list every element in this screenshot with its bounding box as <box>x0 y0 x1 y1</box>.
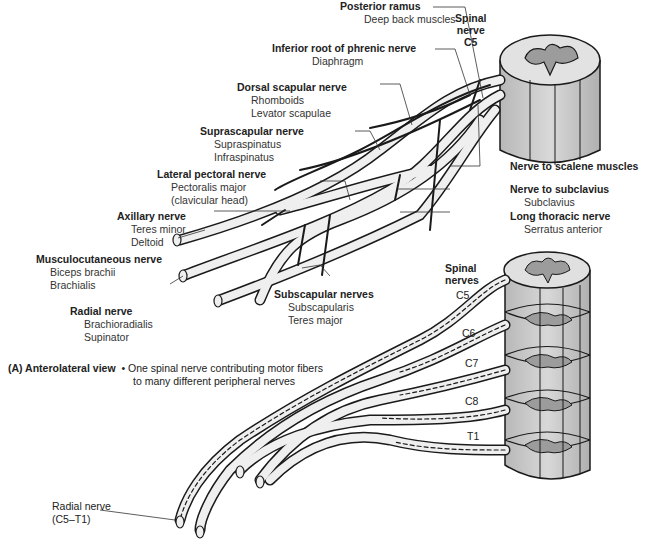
label-title: Lateral pectoral nerve <box>157 168 266 181</box>
label-sub: Teres minor <box>117 223 186 236</box>
label-sub: Subclavius <box>510 196 609 209</box>
figure-caption: (A) Anterolateral view • One spinal nerv… <box>8 362 323 375</box>
label-spinal-nerves-bottom: Spinal nerves <box>445 262 479 286</box>
label-musculocutaneous: Musculocutaneous nerve Biceps brachii Br… <box>36 253 162 292</box>
label-line: Spinal <box>455 12 487 24</box>
label-scalene: Nerve to scalene muscles <box>510 160 638 173</box>
label-axillary: Axillary nerve Teres minor Deltoid <box>117 210 186 249</box>
label-title: Long thoracic nerve <box>510 210 610 223</box>
label-line: (C5–T1) <box>52 513 111 526</box>
label-title: Dorsal scapular nerve <box>237 81 347 94</box>
label-sub: Biceps brachii <box>36 266 162 279</box>
segment-c6: C6 <box>462 327 475 339</box>
label-dorsal-scapular: Dorsal scapular nerve Rhomboids Levator … <box>237 81 347 120</box>
label-line: Spinal <box>445 262 479 274</box>
label-sub: Brachialis <box>36 279 162 292</box>
label-sub: Pectoralis major <box>157 181 266 194</box>
segment-t1: T1 <box>467 430 479 442</box>
label-suprascapular: Suprascapular nerve Supraspinatus Infras… <box>200 125 304 164</box>
label-long-thoracic: Long thoracic nerve Serratus anterior <box>510 210 610 236</box>
label-sub: Infraspinatus <box>200 151 304 164</box>
label-subclavius: Nerve to subclavius Subclavius <box>510 183 609 209</box>
segment-c5: C5 <box>456 289 469 301</box>
label-radial-bottom: Radial nerve (C5–T1) <box>52 500 111 526</box>
caption-note: • One spinal nerve contributing motor fi… <box>121 362 323 374</box>
label-title: Suprascapular nerve <box>200 125 304 138</box>
segment-c8: C8 <box>465 395 478 407</box>
label-title: Posterior ramus <box>340 0 456 13</box>
label-phrenic-nerve: Inferior root of phrenic nerve Diaphragm <box>272 42 416 68</box>
label-title: Radial nerve <box>70 305 153 318</box>
label-sub: Supraspinatus <box>200 138 304 151</box>
label-sub: Teres major <box>274 314 374 327</box>
label-title: Subscapular nerves <box>274 288 374 301</box>
label-lateral-pectoral: Lateral pectoral nerve Pectoralis major … <box>157 168 266 207</box>
label-sub: Subscapularis <box>274 301 374 314</box>
label-title: Musculocutaneous nerve <box>36 253 162 266</box>
label-sub: Rhomboids <box>237 94 347 107</box>
panel-label: (A) Anterolateral view <box>8 362 116 374</box>
segment-c5-top: C5 <box>455 36 487 48</box>
segment-c7: C7 <box>465 357 478 369</box>
label-line: Radial nerve <box>52 500 111 513</box>
spinal-cord-column <box>504 252 590 479</box>
label-sub: Deltoid <box>117 236 186 249</box>
label-sub: Supinator <box>70 331 153 344</box>
label-title: Nerve to subclavius <box>510 183 609 196</box>
spinal-cord-top <box>500 35 600 165</box>
label-sub: Levator scapulae <box>237 107 347 120</box>
label-line: nerve <box>455 24 487 36</box>
label-subscapular: Subscapular nerves Subscapularis Teres m… <box>274 288 374 327</box>
label-title: Inferior root of phrenic nerve <box>272 42 416 55</box>
label-posterior-ramus: Posterior ramus Deep back muscles <box>340 0 456 26</box>
caption-note: to many different peripheral nerves <box>133 375 295 387</box>
figure-caption-2: to many different peripheral nerves <box>133 375 295 388</box>
label-radial-top: Radial nerve Brachioradialis Supinator <box>70 305 153 344</box>
label-sub: Brachioradialis <box>70 318 153 331</box>
label-sub: Deep back muscles <box>340 13 456 26</box>
label-title: Nerve to scalene muscles <box>510 160 638 173</box>
label-title: Axillary nerve <box>117 210 186 223</box>
label-line: nerves <box>445 274 479 286</box>
label-sub: (clavicular head) <box>157 194 266 207</box>
label-spinal-nerve-top: Spinal nerve C5 <box>455 12 487 48</box>
label-sub: Diaphragm <box>272 55 416 68</box>
label-sub: Serratus anterior <box>510 223 610 236</box>
